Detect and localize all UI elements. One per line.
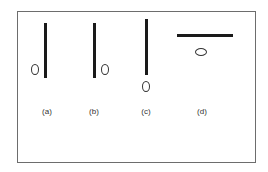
- panel-a-label: (a): [42, 107, 52, 116]
- panel-b-bar: [93, 23, 96, 78]
- panel-c-bar: [145, 19, 148, 75]
- panel-d-label: (d): [197, 107, 207, 116]
- panel-b-ellipse: [101, 64, 109, 75]
- panel-a-ellipse: [31, 64, 39, 75]
- panel-b-label: (b): [89, 107, 99, 116]
- panel-c-label: (c): [141, 107, 150, 116]
- panel-d-bar: [177, 34, 233, 37]
- panel-a-bar: [44, 23, 47, 78]
- panel-c-ellipse: [142, 81, 150, 92]
- panel-d-ellipse: [195, 48, 207, 56]
